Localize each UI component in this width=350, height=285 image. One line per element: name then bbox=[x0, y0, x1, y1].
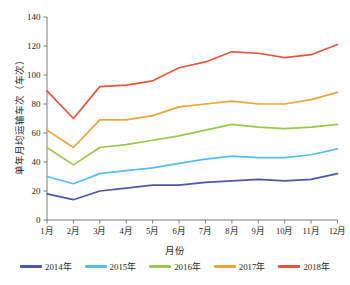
legend-label: 2016年 bbox=[174, 260, 201, 273]
legend-item-2014年[interactable]: 2014年 bbox=[20, 260, 72, 273]
y-axis-tick-label: 20 bbox=[32, 186, 42, 196]
x-axis-tick-label: 1月 bbox=[40, 226, 53, 236]
series-line-2018年 bbox=[47, 45, 338, 119]
legend-item-2016年[interactable]: 2016年 bbox=[149, 260, 201, 273]
chart-container: 单年月均运输车次（车次） 020406080100120140 1月2月3月4月… bbox=[0, 0, 350, 285]
x-axis-tick-label: 12月 bbox=[329, 226, 347, 236]
legend-label: 2015年 bbox=[110, 260, 137, 273]
legend-item-2017年[interactable]: 2017年 bbox=[214, 260, 266, 273]
y-axis-tick-group: 020406080100120140 bbox=[27, 12, 47, 225]
x-axis-tick-label: 7月 bbox=[199, 226, 212, 236]
legend-swatch-icon bbox=[20, 265, 42, 267]
legend-swatch-icon bbox=[149, 265, 171, 267]
legend-swatch-icon bbox=[214, 265, 236, 267]
x-axis-tick-label: 10月 bbox=[276, 226, 294, 236]
x-axis-title: 月份 bbox=[0, 243, 350, 257]
x-axis-tick-label: 9月 bbox=[252, 226, 265, 236]
x-axis-tick-label: 8月 bbox=[225, 226, 238, 236]
y-axis-tick-label: 80 bbox=[32, 99, 42, 109]
legend-swatch-icon bbox=[85, 265, 107, 267]
legend-item-2018年[interactable]: 2018年 bbox=[278, 260, 330, 273]
legend-label: 2018年 bbox=[303, 260, 330, 273]
x-axis-tick-label: 11月 bbox=[302, 226, 319, 236]
y-axis-tick-label: 0 bbox=[36, 215, 41, 225]
y-axis-tick-label: 120 bbox=[27, 41, 41, 51]
x-axis-tick-label: 4月 bbox=[120, 226, 133, 236]
series-line-2017年 bbox=[47, 92, 338, 147]
series-line-group bbox=[47, 45, 338, 200]
legend-label: 2014年 bbox=[45, 260, 72, 273]
chart-legend: 2014年2015年2016年2017年2018年 bbox=[0, 260, 350, 273]
x-axis-tick-label: 3月 bbox=[93, 226, 106, 236]
y-axis-tick-label: 100 bbox=[27, 70, 41, 80]
y-axis-tick-label: 40 bbox=[32, 157, 42, 167]
legend-swatch-icon bbox=[278, 265, 300, 267]
y-axis-tick-label: 60 bbox=[32, 128, 42, 138]
x-axis-tick-label: 5月 bbox=[146, 226, 159, 236]
y-axis-tick-label: 140 bbox=[27, 12, 41, 22]
legend-label: 2017年 bbox=[239, 260, 266, 273]
x-axis-tick-label: 2月 bbox=[67, 226, 80, 236]
legend-item-2015年[interactable]: 2015年 bbox=[85, 260, 137, 273]
x-axis-tick-group: 1月2月3月4月5月6月7月8月9月10月11月12月 bbox=[40, 220, 346, 236]
x-axis-tick-label: 6月 bbox=[172, 226, 185, 236]
